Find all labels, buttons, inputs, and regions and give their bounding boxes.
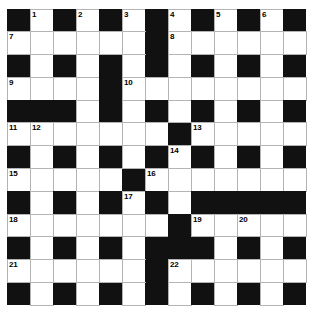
grid-letter-cell[interactable]: 16 [145,168,169,192]
grid-letter-cell[interactable] [122,145,146,169]
grid-letter-cell[interactable] [99,259,123,283]
grid-letter-cell[interactable]: 18 [7,214,31,238]
grid-letter-cell[interactable] [145,77,169,101]
grid-letter-cell[interactable] [168,168,192,192]
grid-letter-cell[interactable] [260,122,284,146]
grid-letter-cell[interactable] [283,31,307,55]
grid-letter-cell[interactable] [30,145,54,169]
grid-letter-cell[interactable] [30,214,54,238]
grid-letter-cell[interactable] [30,168,54,192]
grid-letter-cell[interactable] [53,259,77,283]
grid-letter-cell[interactable] [214,259,238,283]
crossword-grid[interactable]: 12345678910111213141516171819202122 [7,9,306,305]
grid-letter-cell[interactable] [260,282,284,306]
grid-letter-cell[interactable]: 4 [168,9,192,33]
grid-letter-cell[interactable] [30,31,54,55]
grid-letter-cell[interactable]: 13 [191,122,215,146]
grid-letter-cell[interactable] [237,77,261,101]
grid-letter-cell[interactable]: 6 [260,9,284,33]
grid-letter-cell[interactable] [214,77,238,101]
grid-letter-cell[interactable] [145,214,169,238]
grid-letter-cell[interactable]: 2 [76,9,100,33]
grid-letter-cell[interactable] [283,259,307,283]
grid-letter-cell[interactable] [283,214,307,238]
grid-letter-cell[interactable] [30,236,54,260]
grid-letter-cell[interactable] [99,168,123,192]
grid-letter-cell[interactable] [30,77,54,101]
grid-letter-cell[interactable] [214,168,238,192]
grid-letter-cell[interactable]: 10 [122,77,146,101]
grid-letter-cell[interactable] [214,214,238,238]
grid-letter-cell[interactable] [30,191,54,215]
grid-letter-cell[interactable] [168,100,192,124]
grid-letter-cell[interactable]: 7 [7,31,31,55]
grid-letter-cell[interactable] [191,77,215,101]
grid-letter-cell[interactable] [260,54,284,78]
grid-letter-cell[interactable]: 19 [191,214,215,238]
grid-letter-cell[interactable] [260,259,284,283]
grid-letter-cell[interactable] [53,31,77,55]
grid-letter-cell[interactable] [237,168,261,192]
grid-letter-cell[interactable] [260,236,284,260]
grid-letter-cell[interactable] [260,100,284,124]
grid-letter-cell[interactable] [76,191,100,215]
grid-letter-cell[interactable] [168,191,192,215]
grid-letter-cell[interactable] [191,168,215,192]
grid-letter-cell[interactable] [237,31,261,55]
grid-letter-cell[interactable] [30,259,54,283]
grid-letter-cell[interactable] [260,168,284,192]
grid-letter-cell[interactable] [53,122,77,146]
grid-letter-cell[interactable] [214,31,238,55]
grid-letter-cell[interactable]: 9 [7,77,31,101]
grid-letter-cell[interactable] [260,145,284,169]
grid-letter-cell[interactable] [122,282,146,306]
grid-letter-cell[interactable] [76,122,100,146]
grid-letter-cell[interactable] [76,31,100,55]
grid-letter-cell[interactable] [122,236,146,260]
grid-letter-cell[interactable]: 20 [237,214,261,238]
grid-letter-cell[interactable] [76,54,100,78]
grid-letter-cell[interactable]: 14 [168,145,192,169]
grid-letter-cell[interactable] [214,54,238,78]
grid-letter-cell[interactable] [191,259,215,283]
grid-letter-cell[interactable] [214,122,238,146]
grid-letter-cell[interactable] [283,122,307,146]
grid-letter-cell[interactable] [30,282,54,306]
grid-letter-cell[interactable] [283,77,307,101]
grid-letter-cell[interactable] [122,100,146,124]
grid-letter-cell[interactable] [122,31,146,55]
grid-letter-cell[interactable] [260,214,284,238]
grid-letter-cell[interactable] [214,236,238,260]
grid-letter-cell[interactable] [76,236,100,260]
grid-letter-cell[interactable] [122,259,146,283]
grid-letter-cell[interactable] [76,77,100,101]
grid-letter-cell[interactable] [76,282,100,306]
grid-letter-cell[interactable]: 22 [168,259,192,283]
grid-letter-cell[interactable]: 17 [122,191,146,215]
grid-letter-cell[interactable]: 3 [122,9,146,33]
grid-letter-cell[interactable] [168,77,192,101]
grid-letter-cell[interactable] [214,100,238,124]
grid-letter-cell[interactable] [76,214,100,238]
grid-letter-cell[interactable] [283,168,307,192]
grid-letter-cell[interactable] [214,282,238,306]
grid-letter-cell[interactable] [30,54,54,78]
grid-letter-cell[interactable]: 8 [168,31,192,55]
grid-letter-cell[interactable] [53,214,77,238]
grid-letter-cell[interactable]: 12 [30,122,54,146]
grid-letter-cell[interactable]: 11 [7,122,31,146]
grid-letter-cell[interactable] [99,122,123,146]
grid-letter-cell[interactable]: 15 [7,168,31,192]
grid-letter-cell[interactable] [122,214,146,238]
grid-letter-cell[interactable] [53,77,77,101]
grid-letter-cell[interactable] [122,122,146,146]
grid-letter-cell[interactable] [237,122,261,146]
grid-letter-cell[interactable] [260,77,284,101]
grid-letter-cell[interactable] [122,54,146,78]
grid-letter-cell[interactable] [191,31,215,55]
grid-letter-cell[interactable] [214,145,238,169]
grid-letter-cell[interactable] [237,259,261,283]
grid-letter-cell[interactable] [53,168,77,192]
grid-letter-cell[interactable] [168,282,192,306]
grid-letter-cell[interactable] [76,259,100,283]
